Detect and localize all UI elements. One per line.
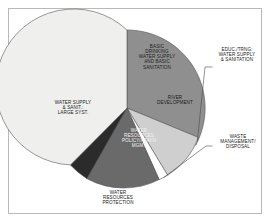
pie-label-water-supply-large-syst: WATER SUPPLY & SANIT.: LARGE SYST. [42, 100, 104, 115]
pie-label-waste-management: WASTE MANAGEMENT/ DISPOSAL [209, 134, 267, 149]
pie-label-water-resources-policy: WATER RESOURCES POLICY/ADMIN MGMT [113, 128, 165, 149]
pie-label-basic-drinking: BASIC DRINKING WATER SUPPLY AND BASIC SA… [130, 44, 184, 70]
pie-label-river-development: RIVER DEVELOPMENT [150, 95, 200, 105]
pie-label-water-resources-protection: WATER RESOURCES PROTECTION [88, 190, 148, 205]
pie-label-educ-trng: EDUC./TRNG: WATER SUPPLY & SANITATION [206, 47, 268, 62]
pie-chart: BASIC DRINKING WATER SUPPLY AND BASIC SA… [0, 0, 272, 224]
